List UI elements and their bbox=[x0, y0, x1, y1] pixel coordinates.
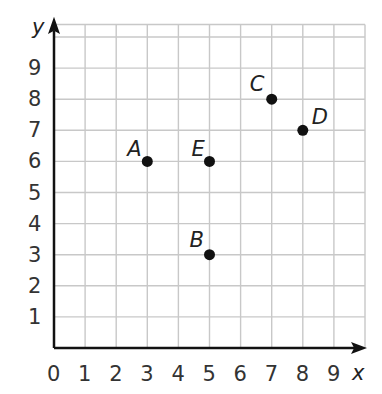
tick-labels: xy0123456789123456789 bbox=[28, 15, 365, 386]
point-label-e: E bbox=[192, 137, 206, 161]
x-tick-label: 5 bbox=[203, 362, 216, 386]
y-tick-label: 9 bbox=[28, 56, 41, 80]
grid-lines bbox=[54, 25, 365, 348]
y-tick-label: 5 bbox=[28, 181, 41, 205]
x-axis-label: x bbox=[351, 361, 365, 385]
y-tick-label: 8 bbox=[28, 87, 41, 111]
data-points: ABCDE bbox=[125, 72, 328, 260]
coordinate-plane: xy0123456789123456789 ABCDE bbox=[0, 0, 382, 394]
x-tick-label: 7 bbox=[265, 362, 278, 386]
x-tick-label: 3 bbox=[140, 362, 153, 386]
x-tick-label: 6 bbox=[234, 362, 247, 386]
point-label-a: A bbox=[125, 137, 141, 161]
point-d bbox=[297, 125, 308, 136]
point-c bbox=[266, 94, 277, 105]
point-label-d: D bbox=[312, 105, 328, 129]
x-tick-label: 9 bbox=[327, 362, 340, 386]
x-tick-label: 8 bbox=[296, 362, 309, 386]
y-tick-label: 1 bbox=[28, 305, 41, 329]
axes bbox=[48, 17, 367, 354]
point-a bbox=[142, 156, 153, 167]
point-b bbox=[204, 249, 215, 260]
x-tick-label: 2 bbox=[109, 362, 122, 386]
x-tick-label: 4 bbox=[171, 362, 184, 386]
point-label-c: C bbox=[250, 72, 265, 96]
y-axis-label: y bbox=[31, 15, 45, 39]
y-tick-label: 2 bbox=[28, 274, 41, 298]
x-tick-label: 1 bbox=[78, 362, 91, 386]
y-tick-label: 4 bbox=[28, 212, 41, 236]
y-tick-label: 6 bbox=[28, 149, 41, 173]
point-label-b: B bbox=[190, 228, 204, 252]
y-tick-label: 7 bbox=[28, 118, 41, 142]
y-tick-label: 3 bbox=[28, 243, 41, 267]
x-tick-label: 0 bbox=[47, 362, 60, 386]
point-e bbox=[204, 156, 215, 167]
